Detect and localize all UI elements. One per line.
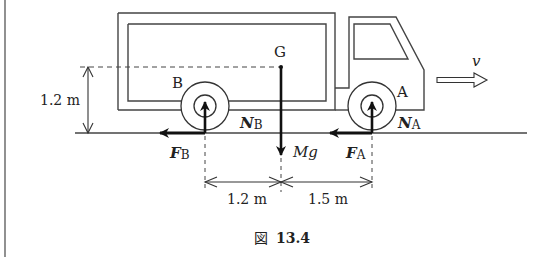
truck-force-diagram: G B A v NB NA FB FA Mg 1.2 m 1.2 m 1.5 m…	[0, 0, 557, 257]
label-v: v	[472, 52, 481, 70]
distance-dimensions	[205, 177, 372, 187]
dist-B-G-label: 1.2 m	[227, 191, 267, 207]
label-F-A: FA	[345, 144, 366, 162]
label-B: B	[172, 74, 183, 92]
height-dimension	[83, 67, 93, 133]
label-N-B: NB	[239, 114, 263, 132]
velocity-arrow	[437, 73, 487, 87]
cab-window	[354, 24, 408, 59]
label-A: A	[396, 83, 408, 101]
label-F-B: FB	[169, 144, 190, 162]
height-dimension-label: 1.2 m	[40, 92, 80, 108]
dist-G-A-label: 1.5 m	[308, 191, 348, 207]
label-G: G	[274, 43, 286, 61]
figure-caption: 図13.4	[254, 230, 310, 246]
label-N-A: NA	[397, 114, 421, 132]
label-Mg: Mg	[292, 143, 318, 161]
